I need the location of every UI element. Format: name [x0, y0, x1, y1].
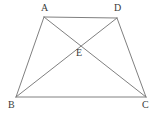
- side-AD: [44, 17, 117, 18]
- vertex-label-D: D: [114, 3, 121, 13]
- side-AB: [16, 17, 44, 97]
- geometry-figure: A D B C E: [0, 0, 164, 116]
- vertex-label-A: A: [41, 3, 48, 13]
- vertex-label-E: E: [76, 48, 82, 58]
- vertex-label-B: B: [8, 100, 15, 110]
- diagonal-AC: [44, 17, 146, 97]
- diagonal-BD: [16, 18, 117, 97]
- geometry-canvas: [0, 0, 164, 116]
- vertex-label-C: C: [142, 100, 149, 110]
